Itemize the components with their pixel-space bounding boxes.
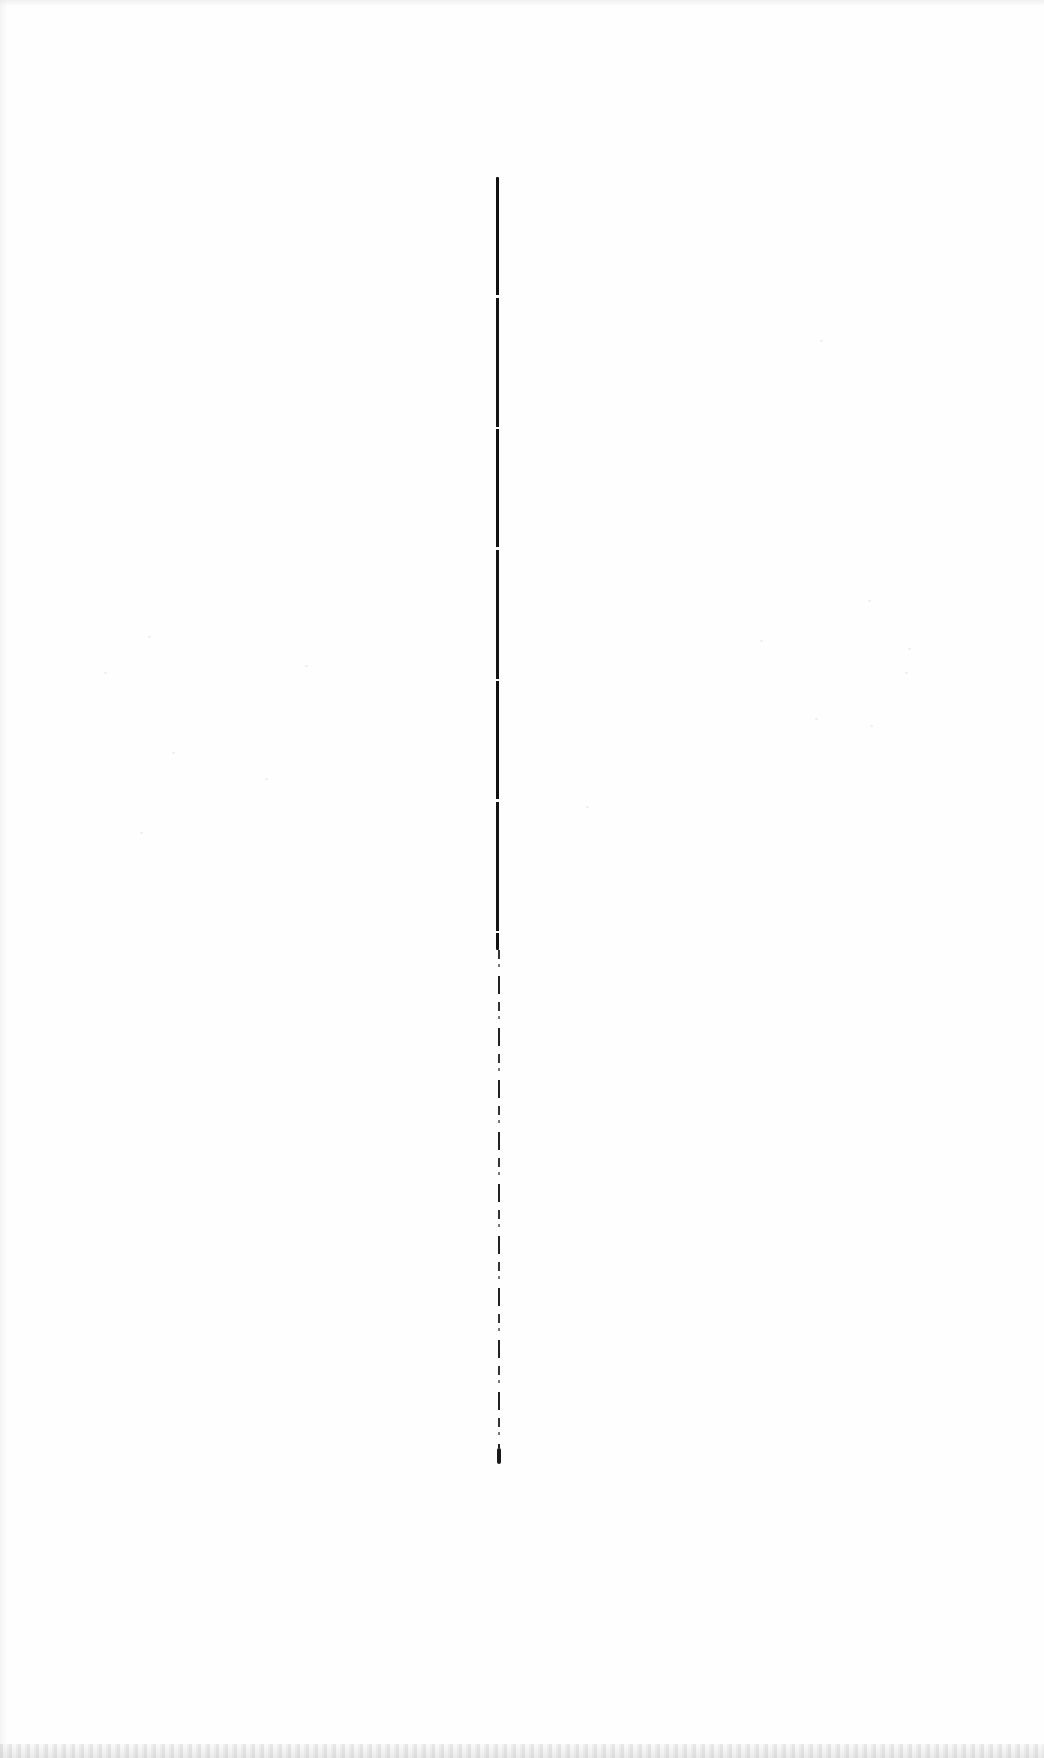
bleed-speck [305, 665, 308, 667]
scan-edge-top [0, 0, 1044, 6]
bleed-speck [140, 832, 143, 834]
bleed-speck [172, 752, 175, 754]
bleed-speck [820, 340, 823, 342]
bleed-speck [870, 725, 873, 727]
scan-edge-left [0, 0, 8, 1758]
scanned-page [0, 0, 1044, 1758]
bleed-speck [104, 672, 107, 674]
bleed-speck [760, 640, 763, 642]
bleed-speck [148, 636, 151, 638]
bleed-speck [586, 806, 589, 808]
vertical-rule-solid [496, 177, 499, 950]
vertical-rule-tail-mark [497, 1448, 501, 1464]
bleed-speck [868, 600, 871, 602]
bleed-speck [815, 718, 818, 720]
bleed-speck [908, 648, 911, 650]
bleed-speck [905, 672, 908, 674]
vertical-rule-broken [498, 950, 500, 1448]
scan-edge-bottom [0, 1744, 1044, 1758]
bleed-speck [265, 778, 268, 780]
